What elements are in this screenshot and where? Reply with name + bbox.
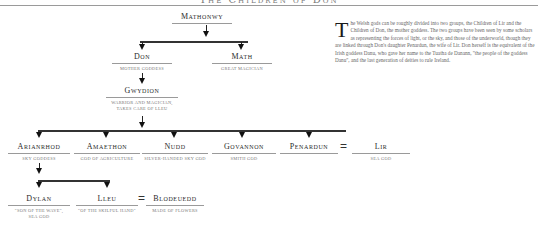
arrow-down-icon: [103, 132, 109, 138]
arrow-down-icon: [238, 44, 244, 50]
node-desc: God of agriculture: [74, 156, 140, 162]
intro-paragraph: T he Welsh gods can be roughly divided i…: [335, 20, 535, 64]
node-name: Math: [212, 52, 272, 64]
node-name: Blodeuedd: [146, 194, 204, 206]
paragraph-body: he Welsh gods can be roughly divided int…: [335, 20, 534, 63]
node-name: Penardun: [280, 142, 338, 154]
node-name: Gwydion: [106, 86, 178, 98]
node-desc: Made of flowers: [146, 208, 204, 214]
node-desc: Sea god: [352, 156, 410, 162]
node-name: Amaethon: [74, 142, 140, 154]
node-govannon: Govannon Smith god: [212, 142, 276, 162]
header-rule: [0, 5, 538, 6]
drop-cap: T: [335, 21, 348, 39]
node-arianrhod: Arianrhod Sky goddess: [8, 142, 70, 162]
node-name: Don: [112, 52, 172, 64]
node-amaethon: Amaethon God of agriculture: [74, 142, 140, 162]
node-lir: Lir Sea god: [352, 142, 410, 162]
node-blodeuedd: Blodeuedd Made of flowers: [146, 194, 204, 214]
node-name: Dylan: [8, 194, 70, 206]
node-desc: Mother goddess: [112, 66, 172, 72]
arrow-down-icon: [104, 182, 110, 188]
marriage-symbol: =: [138, 191, 145, 205]
node-name: Govannon: [212, 142, 276, 154]
arrow-down-icon: [139, 44, 145, 50]
node-desc: Warrior and magician,: [106, 100, 178, 106]
arrow-down-icon: [239, 132, 245, 138]
node-don: Don Mother goddess: [112, 52, 172, 72]
node-penardun: Penardun: [280, 142, 338, 154]
node-nudd: Nudd Silver-handed sky god: [142, 142, 208, 162]
node-name: Arianrhod: [8, 142, 70, 154]
sibling-line: [38, 130, 346, 132]
node-mathonwy: Mathonwy: [172, 12, 232, 24]
node-desc: Sky goddess: [8, 156, 70, 162]
arrow-down-icon: [171, 132, 177, 138]
arrow-down-icon: [203, 31, 209, 37]
node-name: Lleu: [76, 194, 138, 206]
node-math: Math Great magician: [212, 52, 272, 72]
sibling-line: [38, 180, 110, 182]
node-desc: Great magician: [212, 66, 272, 72]
node-lleu: Lleu "Of the skilful hand": [76, 194, 138, 214]
node-desc: "Of the skilful hand": [76, 208, 138, 214]
node-name: Mathonwy: [172, 12, 232, 24]
arrow-down-icon: [139, 122, 145, 128]
node-dylan: Dylan "Son of the wave", sea god: [8, 194, 70, 219]
node-name: Nudd: [142, 142, 208, 154]
node-name: Lir: [352, 142, 410, 154]
node-desc: Smith god: [212, 156, 276, 162]
arrow-down-icon: [36, 182, 42, 188]
arrow-down-icon: [36, 132, 42, 138]
node-desc: Silver-handed sky god: [142, 156, 208, 162]
node-desc-2: sea god: [8, 214, 70, 220]
node-gwydion: Gwydion Warrior and magician, takes care…: [106, 86, 178, 111]
arrow-down-icon: [36, 168, 42, 174]
node-desc: "Son of the wave",: [8, 208, 70, 214]
marriage-symbol: =: [340, 139, 347, 153]
arrow-down-icon: [139, 78, 145, 84]
node-desc-2: takes care of Lleu: [106, 106, 178, 112]
sibling-line: [140, 41, 248, 43]
arrow-down-icon: [306, 132, 312, 138]
